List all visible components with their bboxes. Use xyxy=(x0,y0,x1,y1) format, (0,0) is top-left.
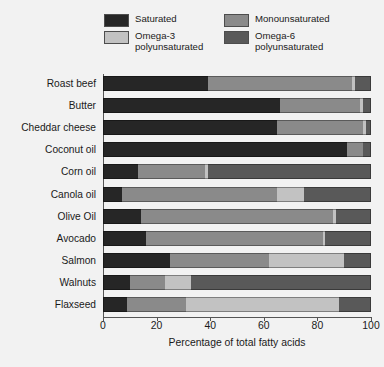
bar-segment-saturated xyxy=(103,164,138,179)
bar-row xyxy=(103,76,371,91)
bar-segment-omega-6 xyxy=(304,187,371,202)
legend-label-omega6: Omega-6 polyunsaturated xyxy=(255,31,323,52)
bar-segment-omega-6 xyxy=(366,120,371,135)
legend-label-saturated: Saturated xyxy=(135,14,177,25)
bar-segment-omega-6 xyxy=(363,142,371,157)
bar-row xyxy=(103,297,371,312)
bar-segment-saturated xyxy=(103,253,170,268)
bar-segment-saturated xyxy=(103,231,146,246)
bar-segment-monounsaturated xyxy=(170,253,269,268)
x-axis-title: Percentage of total fatty acids xyxy=(103,337,371,348)
y-axis-label: Butter xyxy=(0,98,96,113)
bar-segment-saturated xyxy=(103,187,122,202)
bar-row xyxy=(103,142,371,157)
bar-segment-monounsaturated xyxy=(208,76,353,91)
legend-item-saturated: Saturated xyxy=(104,14,224,27)
bar-row xyxy=(103,187,371,202)
bar-segment-saturated xyxy=(103,209,141,224)
bar-segment-omega-6 xyxy=(344,253,371,268)
x-tick-label: 40 xyxy=(190,320,230,331)
bar-segment-monounsaturated xyxy=(122,187,277,202)
bar-segment-monounsaturated xyxy=(280,98,360,113)
bar-segment-monounsaturated xyxy=(141,209,334,224)
legend-item-omega3: Omega-3 polyunsaturated xyxy=(104,31,224,52)
x-tick-label: 0 xyxy=(83,320,123,331)
legend-label-omega3: Omega-3 polyunsaturated xyxy=(135,31,203,52)
bar-row xyxy=(103,275,371,290)
y-axis-label: Roast beef xyxy=(0,76,96,91)
bar-segment-saturated xyxy=(103,142,347,157)
y-axis-label: Canola oil xyxy=(0,187,96,202)
bar-segment-omega-6 xyxy=(208,164,371,179)
bar-row xyxy=(103,98,371,113)
bars-layer xyxy=(103,74,371,317)
bar-segment-monounsaturated xyxy=(347,142,363,157)
bar-segment-omega-3 xyxy=(165,275,192,290)
bar-segment-monounsaturated xyxy=(138,164,205,179)
bar-segment-omega-6 xyxy=(325,231,371,246)
bar-segment-saturated xyxy=(103,275,130,290)
y-axis-label: Flaxseed xyxy=(0,297,96,312)
bar-segment-omega-6 xyxy=(363,98,371,113)
bar-segment-omega-3 xyxy=(186,297,339,312)
bar-segment-omega-3 xyxy=(277,187,304,202)
bar-segment-omega-6 xyxy=(336,209,371,224)
bar-row xyxy=(103,253,371,268)
bar-segment-omega-3 xyxy=(269,253,344,268)
y-axis-label: Cheddar cheese xyxy=(0,120,96,135)
bar-segment-monounsaturated xyxy=(146,231,323,246)
x-tick-label: 60 xyxy=(244,320,284,331)
y-axis-label: Coconut oil xyxy=(0,142,96,157)
bar-row xyxy=(103,231,371,246)
bar-segment-omega-6 xyxy=(191,275,371,290)
x-tick-label: 20 xyxy=(137,320,177,331)
bar-segment-monounsaturated xyxy=(130,275,165,290)
legend-label-monounsaturated: Monounsaturated xyxy=(255,14,330,25)
bar-segment-omega-6 xyxy=(339,297,371,312)
legend-swatch-monounsaturated xyxy=(224,14,249,27)
y-axis-label: Salmon xyxy=(0,253,96,268)
bar-segment-monounsaturated xyxy=(127,297,186,312)
bar-segment-saturated xyxy=(103,297,127,312)
x-tick-label: 100 xyxy=(351,320,384,331)
y-axis-label: Olive Oil xyxy=(0,209,96,224)
legend-item-monounsaturated: Monounsaturated xyxy=(224,14,376,27)
bar-row xyxy=(103,120,371,135)
legend-swatch-omega3 xyxy=(104,31,129,44)
bar-segment-monounsaturated xyxy=(277,120,363,135)
bar-segment-omega-6 xyxy=(355,76,371,91)
bar-segment-saturated xyxy=(103,120,277,135)
bar-row xyxy=(103,164,371,179)
legend-item-omega6: Omega-6 polyunsaturated xyxy=(224,31,376,52)
bar-row xyxy=(103,209,371,224)
x-tick-label: 80 xyxy=(297,320,337,331)
y-axis-label: Corn oil xyxy=(0,164,96,179)
chart-legend: Saturated Monounsaturated Omega-3 polyun… xyxy=(104,14,376,52)
legend-swatch-saturated xyxy=(104,14,129,27)
y-axis-label: Walnuts xyxy=(0,275,96,290)
stacked-bar-chart: Saturated Monounsaturated Omega-3 polyun… xyxy=(0,0,384,367)
bar-segment-saturated xyxy=(103,76,208,91)
legend-swatch-omega6 xyxy=(224,31,249,44)
y-axis-label: Avocado xyxy=(0,231,96,246)
bar-segment-saturated xyxy=(103,98,280,113)
